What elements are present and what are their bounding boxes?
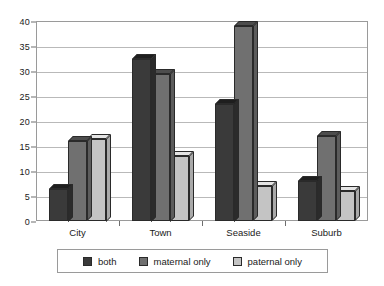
gridline: [37, 197, 367, 198]
bar-chart: 0510152025303540 CityTownSeasideSuburb b…: [0, 0, 384, 286]
legend-label: paternal only: [248, 256, 302, 267]
y-tick-label: 0: [25, 218, 30, 227]
legend-label: maternal only: [154, 256, 211, 267]
chart-legend: bothmaternal onlypaternal only: [57, 249, 328, 273]
y-tick-label: 5: [25, 193, 30, 202]
legend-item-both[interactable]: both: [83, 256, 117, 267]
gridline: [37, 47, 367, 48]
y-tick-label: 25: [20, 93, 30, 102]
y-tick-label: 20: [20, 118, 30, 127]
legend-swatch-icon: [83, 257, 92, 266]
gridline: [37, 72, 367, 73]
gridline: [37, 97, 367, 98]
x-tickmark: [285, 221, 286, 226]
x-axis-label-city: City: [69, 227, 85, 238]
legend-swatch-icon: [139, 257, 148, 266]
plot-area: [36, 21, 368, 221]
y-tick-label: 30: [20, 68, 30, 77]
y-tick-label: 35: [20, 43, 30, 52]
gridline: [37, 172, 367, 173]
gridline: [37, 147, 367, 148]
legend-item-paternal-only[interactable]: paternal only: [233, 256, 302, 267]
x-axis-label-seaside: Seaside: [226, 227, 260, 238]
y-tick-label: 10: [20, 168, 30, 177]
x-axis: CityTownSeasideSuburb: [36, 221, 368, 245]
y-axis: 0510152025303540: [0, 21, 36, 222]
x-tickmark: [202, 221, 203, 226]
x-axis-label-town: Town: [149, 227, 171, 238]
y-tick-label: 40: [20, 18, 30, 27]
x-tickmark: [119, 221, 120, 226]
gridline: [37, 122, 367, 123]
legend-item-maternal-only[interactable]: maternal only: [139, 256, 211, 267]
gridlines: [37, 22, 367, 220]
x-axis-label-suburb: Suburb: [311, 227, 342, 238]
legend-label: both: [98, 256, 117, 267]
y-tick-label: 15: [20, 143, 30, 152]
legend-swatch-icon: [233, 257, 242, 266]
